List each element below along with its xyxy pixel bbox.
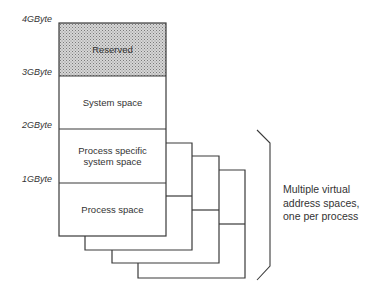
diagram-lines bbox=[0, 0, 382, 297]
annotation-line-3: one per process bbox=[283, 210, 359, 224]
segment-system-space: System space bbox=[59, 76, 166, 129]
axis-label-3gb: 3GByte bbox=[22, 67, 52, 77]
segment-process-space: Process space bbox=[59, 183, 166, 236]
diagram-canvas: 4GByte 3GByte 2GByte 1GByte Reserved Sys… bbox=[0, 0, 382, 297]
annotation-multiple-address-spaces: Multiple virtual address spaces, one per… bbox=[283, 183, 359, 224]
axis-label-1gb: 1GByte bbox=[22, 174, 52, 184]
segment-reserved-label: Reserved bbox=[92, 44, 133, 55]
axis-label-2gb: 2GByte bbox=[22, 120, 52, 130]
annotation-line-2: address spaces, bbox=[283, 197, 359, 211]
bracket-icon bbox=[257, 130, 270, 280]
segment-process-space-label: Process space bbox=[81, 204, 143, 215]
segment-process-specific-label-line2: system space bbox=[83, 156, 141, 167]
segment-system-space-label: System space bbox=[83, 97, 143, 108]
segment-reserved: Reserved bbox=[59, 23, 166, 76]
segment-process-specific-system-space: Process specific system space bbox=[59, 129, 166, 183]
axis-label-4gb: 4GByte bbox=[22, 14, 52, 24]
segment-process-specific-label-line1: Process specific bbox=[78, 145, 147, 156]
annotation-line-1: Multiple virtual bbox=[283, 183, 359, 197]
